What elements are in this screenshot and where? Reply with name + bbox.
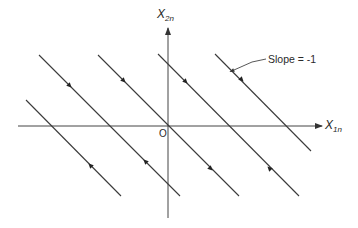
- y-axis-label: X2n: [157, 7, 174, 23]
- trajectory-a: [26, 100, 121, 196]
- x-axis-label: X1n: [325, 118, 342, 134]
- origin-label: O: [159, 128, 167, 139]
- trajectory-d: [158, 54, 299, 196]
- arrow-down-right-icon: [207, 165, 214, 172]
- slope-annotation: Slope = -1: [268, 53, 316, 65]
- direction-arrows: [66, 76, 273, 172]
- slope-leader-line: [234, 59, 266, 70]
- trajectory-e: [215, 54, 311, 151]
- arrow-down-right-icon: [238, 76, 245, 83]
- phase-plane-diagram: [0, 0, 358, 228]
